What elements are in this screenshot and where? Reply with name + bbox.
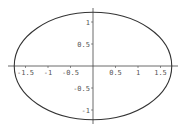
tick-labels: -1.5-1-0.50.511.510.5-0.5-1 (17, 19, 167, 115)
x-tick-label: 0.5 (109, 69, 122, 77)
x-tick-label: 1 (136, 69, 140, 77)
x-tick-label: -0.5 (62, 69, 79, 77)
y-tick-label: -0.5 (73, 85, 90, 93)
y-tick-label: 0.5 (77, 41, 90, 49)
y-tick-label: -1 (82, 107, 90, 115)
ellipse-plot: -1.5-1-0.50.511.510.5-0.5-1 (0, 0, 185, 131)
x-tick-label: 1.5 (154, 69, 167, 77)
y-tick-label: 1 (86, 19, 90, 27)
axes (8, 8, 178, 124)
x-tick-label: -1.5 (17, 69, 34, 77)
x-tick-label: -1 (44, 69, 52, 77)
